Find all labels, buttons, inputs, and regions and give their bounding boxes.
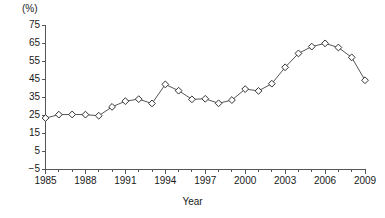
data-point-marker <box>69 111 76 118</box>
series-line <box>46 43 366 118</box>
x-axis-tick-label: 2003 <box>265 176 305 186</box>
y-axis-tick-label: 65 <box>16 38 40 48</box>
y-axis-tick-label: 5 <box>16 146 40 156</box>
x-axis-tick-label: 2009 <box>345 176 385 186</box>
data-point-marker <box>308 43 315 50</box>
x-axis-tick-label: 1997 <box>185 176 225 186</box>
y-axis-tick-label: 25 <box>16 110 40 120</box>
data-point-marker <box>322 40 329 47</box>
data-point-marker <box>202 95 209 102</box>
data-point-marker <box>42 115 49 122</box>
line-chart: (%) −5515253545556575 198519881991199419… <box>0 0 385 218</box>
y-axis-tick-label: 45 <box>16 74 40 84</box>
x-axis-tick-label: 1991 <box>105 176 145 186</box>
y-axis-tick-label: −5 <box>16 164 40 174</box>
x-axis-tick-label: 2000 <box>225 176 265 186</box>
x-axis-tick-label: 1985 <box>26 176 66 186</box>
data-point-marker <box>82 111 89 118</box>
x-axis-tick-label: 1994 <box>145 176 185 186</box>
y-axis-tick-label: 75 <box>16 20 40 30</box>
data-point-marker <box>215 100 222 107</box>
data-point-marker <box>95 112 102 119</box>
data-point-marker <box>255 87 262 94</box>
y-axis-tick-label: 35 <box>16 92 40 102</box>
y-axis-tick-label: 15 <box>16 128 40 138</box>
x-axis-tick-label: 1988 <box>65 176 105 186</box>
data-series <box>42 40 368 122</box>
data-point-marker <box>109 104 116 111</box>
data-point-marker <box>162 81 169 88</box>
data-point-marker <box>149 100 156 107</box>
x-axis-title: Year <box>0 196 385 208</box>
data-point-marker <box>55 111 62 118</box>
y-axis-tick-label: 55 <box>16 56 40 66</box>
data-point-marker <box>189 96 196 103</box>
data-point-marker <box>122 98 129 105</box>
x-axis-tick-label: 2006 <box>305 176 345 186</box>
data-point-marker <box>175 87 182 94</box>
data-point-marker <box>362 77 369 84</box>
data-point-marker <box>135 96 142 103</box>
